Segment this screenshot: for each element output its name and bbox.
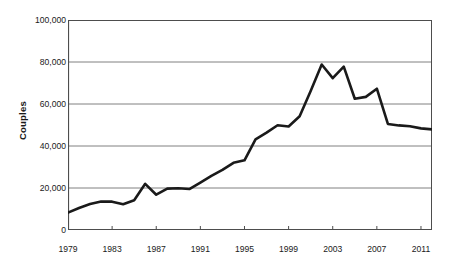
x-tick-label: 1999 bbox=[279, 244, 298, 254]
x-axis-tick-labels: 197919831987199119951999200320072011 bbox=[0, 242, 450, 264]
x-tick-label: 1983 bbox=[103, 244, 122, 254]
plot-area bbox=[68, 20, 432, 230]
y-tick-label: 60,000 bbox=[40, 99, 66, 109]
x-tick-label: 1995 bbox=[235, 244, 254, 254]
y-tick-label: 80,000 bbox=[40, 57, 66, 67]
y-tick-label: 0 bbox=[61, 225, 66, 235]
y-tick-label: 40,000 bbox=[40, 141, 66, 151]
y-axis-title-text: Couples bbox=[17, 101, 28, 140]
chart-figure: Couples 020,00040,00060,00080,000100,000… bbox=[0, 0, 450, 268]
chart-svg bbox=[68, 20, 432, 230]
gridlines bbox=[68, 20, 432, 188]
y-axis-tick-labels: 020,00040,00060,00080,000100,000 bbox=[20, 0, 66, 240]
x-tick-label: 2007 bbox=[367, 244, 386, 254]
y-tick-label: 100,000 bbox=[35, 15, 66, 25]
x-tick-label: 1987 bbox=[147, 244, 166, 254]
x-tick-label: 2011 bbox=[412, 244, 430, 254]
x-tick-label: 2003 bbox=[323, 244, 342, 254]
plot-frame bbox=[68, 20, 432, 230]
y-tick-label: 20,000 bbox=[40, 183, 66, 193]
y-axis-title: Couples bbox=[8, 0, 36, 240]
x-tick-label: 1991 bbox=[191, 244, 210, 254]
x-tick-label: 1979 bbox=[58, 244, 77, 254]
data-line-couples bbox=[68, 65, 432, 213]
